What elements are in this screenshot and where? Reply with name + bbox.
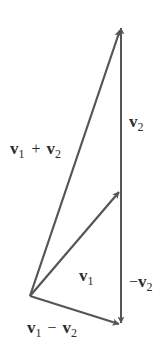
label-v1-plus-v2: v1+v2 [10,139,61,161]
label-v2: v2 [129,112,144,134]
label-v1-minus-v2: v1−v2 [27,318,77,340]
vector-v1-minus-v2 [30,296,119,324]
label-v1: v1 [79,266,94,288]
label-neg-v2: −v2 [129,272,153,294]
vector-v1-plus-v2 [30,30,120,296]
vector-v1 [30,192,119,296]
vector-diagram: v1+v2 v2 v1 −v2 v1−v2 [0,0,166,353]
